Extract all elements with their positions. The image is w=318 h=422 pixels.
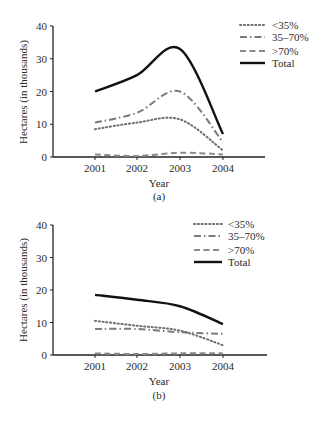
series-line (95, 118, 223, 151)
legend: <35%35–70%>70%Total (194, 218, 265, 268)
series-line (95, 321, 223, 345)
series-line (95, 153, 223, 156)
y-tick-label: 0 (42, 151, 48, 163)
chart-panel-a: 010203040 2001200220032004 <35%35–70%>70… (17, 19, 309, 203)
legend-label: >70% (272, 45, 298, 57)
x-tick-label: 2003 (169, 360, 192, 372)
y-tick-label: 20 (36, 86, 48, 98)
series-lines (95, 295, 223, 354)
series-line (95, 353, 223, 354)
x-ticks: 2001200220032004 (84, 355, 235, 372)
panel-label: (b) (153, 389, 166, 402)
panel-label: (a) (153, 190, 166, 203)
x-axis-title: Year (149, 177, 170, 189)
legend: <35%35–70%>70%Total (240, 19, 309, 69)
x-tick-label: 2004 (212, 360, 235, 372)
legend-label: Total (272, 57, 294, 69)
y-tick-label: 20 (36, 284, 48, 296)
chart-panel-b: 010203040 2001200220032004 <35%35–70%>70… (17, 218, 267, 402)
y-tick-label: 40 (36, 219, 48, 231)
y-axis-title: Hectares (in thousands) (17, 40, 30, 144)
y-tick-label: 10 (36, 317, 48, 329)
legend-label: 35–70% (228, 230, 265, 242)
legend-label: Total (228, 256, 250, 268)
legend-label: <35% (228, 218, 254, 230)
y-tick-label: 30 (36, 252, 48, 264)
legend-label: >70% (228, 244, 254, 256)
y-tick-label: 40 (36, 20, 48, 32)
y-tick-label: 0 (42, 349, 48, 361)
legend-label: 35–70% (272, 31, 309, 43)
x-tick-label: 2003 (169, 162, 192, 174)
x-tick-label: 2001 (84, 360, 106, 372)
x-tick-label: 2002 (126, 162, 148, 174)
x-tick-label: 2001 (84, 162, 106, 174)
x-axis-title: Year (149, 375, 170, 387)
series-line (95, 329, 223, 334)
y-ticks: 010203040 (36, 20, 53, 163)
x-tick-label: 2004 (212, 162, 235, 174)
y-tick-label: 30 (36, 53, 48, 65)
y-axis-title: Hectares (in thousands) (17, 238, 30, 342)
series-lines (95, 47, 223, 156)
series-line (95, 47, 223, 134)
series-line (95, 295, 223, 324)
y-ticks: 010203040 (36, 219, 53, 361)
legend-label: <35% (272, 19, 298, 31)
x-tick-label: 2002 (126, 360, 148, 372)
x-ticks: 2001200220032004 (84, 157, 235, 174)
y-tick-label: 10 (36, 118, 48, 130)
figure: 010203040 2001200220032004 <35%35–70%>70… (0, 0, 318, 422)
